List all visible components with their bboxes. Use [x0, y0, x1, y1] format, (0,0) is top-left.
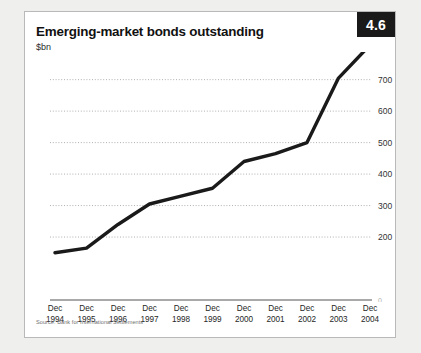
y-axis-tick-label: 700: [378, 75, 392, 85]
source-note: Source: Bank for International Settlemen…: [36, 319, 143, 325]
chart-page: 4.6 Emerging-market bonds outstanding $b…: [0, 0, 421, 353]
line-chart-svg: 0200300400500600700800: [30, 52, 396, 302]
y-axis-tick-label: 0: [378, 297, 382, 302]
chart-plot-area: 0200300400500600700800: [30, 52, 396, 302]
x-axis-tick-label: Dec2004: [350, 303, 390, 325]
chart-units-label: $bn: [36, 42, 51, 52]
y-axis-tick-label: 500: [378, 138, 392, 148]
y-axis-tick-label: 200: [378, 232, 392, 242]
chart-card: 4.6 Emerging-market bonds outstanding $b…: [24, 11, 396, 338]
x-axis-tick-month: Dec: [350, 303, 390, 314]
y-axis-tick-label: 300: [378, 201, 392, 211]
x-axis-tick-year: 2004: [350, 314, 390, 325]
chart-title: Emerging-market bonds outstanding: [36, 24, 264, 39]
data-series-line: [55, 52, 370, 253]
chart-number-badge: 4.6: [357, 12, 395, 37]
y-axis-tick-label: 800: [378, 52, 392, 53]
x-axis-labels: Dec1994Dec1995Dec1996Dec1997Dec1998Dec19…: [30, 303, 396, 329]
y-axis-tick-label: 400: [378, 169, 392, 179]
y-axis-tick-label: 600: [378, 106, 392, 116]
